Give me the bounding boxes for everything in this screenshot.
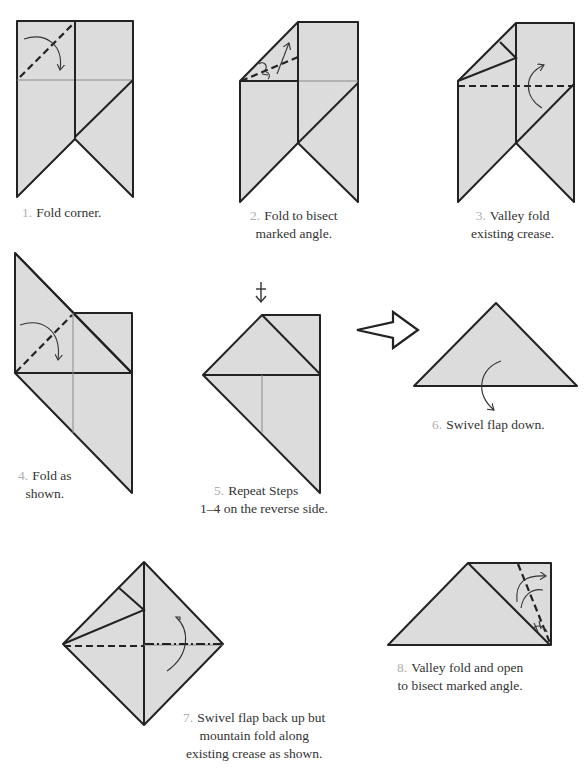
step-7-diagram xyxy=(63,562,223,725)
step-5-diagram xyxy=(203,282,320,493)
step-2-diagram xyxy=(240,22,358,202)
step-6-caption: 6.Swivel flap down. xyxy=(432,416,545,434)
next-view-arrow-icon xyxy=(357,312,418,348)
step-7-caption: 7.Swivel flap back up but mountain fold … xyxy=(183,709,325,763)
step-1-diagram xyxy=(17,21,133,197)
step-number: 2. xyxy=(250,208,260,223)
step-5-caption: 5.Repeat Steps 1–4 on the reverse side. xyxy=(200,482,328,518)
repeat-behind-arrow-icon xyxy=(256,282,266,302)
step-number: 8. xyxy=(397,660,407,675)
step-8-caption: 8.Valley fold and open to bisect marked … xyxy=(397,659,523,695)
step-6-diagram xyxy=(414,303,577,410)
step-number: 5. xyxy=(214,483,224,498)
step-3-diagram xyxy=(458,23,574,202)
step-2-caption: 2.Fold to bisect marked angle. xyxy=(250,207,338,243)
step-number: 4. xyxy=(18,468,28,483)
diagram-canvas xyxy=(0,0,586,772)
step-1-caption: 1.Fold corner. xyxy=(22,204,101,222)
step-number: 7. xyxy=(183,710,193,725)
step-number: 3. xyxy=(476,208,486,223)
step-4-caption: 4.Fold as shown. xyxy=(18,467,72,503)
step-8-diagram xyxy=(388,563,551,645)
step-number: 1. xyxy=(22,205,32,220)
step-3-caption: 3.Valley fold existing crease. xyxy=(471,207,554,243)
step-number: 6. xyxy=(432,417,442,432)
step-4-diagram xyxy=(15,253,132,493)
